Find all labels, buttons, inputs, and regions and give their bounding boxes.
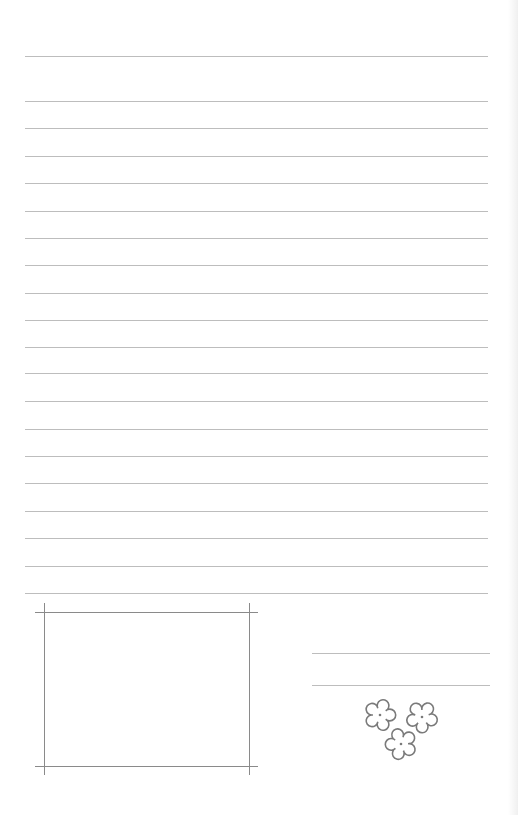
ruled-line — [25, 483, 488, 484]
flower-center-dot — [379, 714, 382, 717]
ruled-line — [25, 320, 488, 321]
frame-vertical-line — [249, 603, 250, 775]
frame-horizontal-line — [35, 766, 258, 767]
flower-center-dot — [421, 716, 424, 719]
ruled-line — [25, 265, 488, 266]
ruled-line — [25, 101, 488, 102]
ruled-line — [25, 593, 488, 594]
ruled-line — [25, 128, 488, 129]
ruled-line — [25, 429, 488, 430]
ruled-line — [25, 456, 488, 457]
frame-horizontal-line — [35, 612, 258, 613]
ruled-line — [25, 566, 488, 567]
ruled-line — [25, 293, 488, 294]
ruled-line — [25, 156, 488, 157]
ruled-line — [25, 347, 488, 348]
ruled-line — [25, 538, 488, 539]
flower-center-dot — [400, 743, 403, 746]
page-edge-shadow — [508, 0, 518, 815]
ruled-line — [25, 238, 488, 239]
ruled-line — [25, 183, 488, 184]
ruled-line — [25, 56, 488, 57]
frame-vertical-line — [44, 603, 45, 775]
ruled-line — [25, 211, 488, 212]
ruled-line — [25, 401, 488, 402]
flower-cluster-icon — [360, 698, 450, 763]
signature-line — [312, 653, 490, 654]
signature-line — [312, 685, 490, 686]
ruled-line — [25, 373, 488, 374]
ruled-line — [25, 511, 488, 512]
